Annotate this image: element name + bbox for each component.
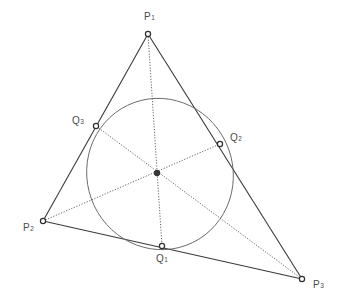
point-labels: P1P2P3Q1Q2Q3 — [23, 11, 324, 290]
label-p2: P2 — [23, 222, 34, 233]
point-p1-icon — [145, 31, 150, 36]
concurrency-point-icon — [154, 170, 160, 176]
label-q2: Q2 — [230, 132, 242, 143]
dotted-cevians — [43, 34, 302, 279]
side-P3-P1 — [148, 34, 302, 279]
label-p1: P1 — [144, 11, 155, 22]
cevian-P1-Q1 — [148, 34, 162, 246]
label-q3: Q3 — [72, 115, 84, 126]
point-q1-icon — [159, 243, 164, 248]
triangle-inellipse-diagram: P1P2P3Q1Q2Q3 — [0, 0, 341, 302]
points — [40, 31, 304, 281]
label-p3: P3 — [313, 279, 324, 290]
label-q1: Q1 — [156, 253, 168, 264]
point-q2-icon — [217, 141, 222, 146]
triangle-sides — [43, 34, 302, 279]
point-q3-icon — [93, 123, 98, 128]
point-p3-icon — [299, 276, 304, 281]
point-p2-icon — [40, 218, 45, 223]
cevian-P2-Q2 — [43, 144, 220, 221]
